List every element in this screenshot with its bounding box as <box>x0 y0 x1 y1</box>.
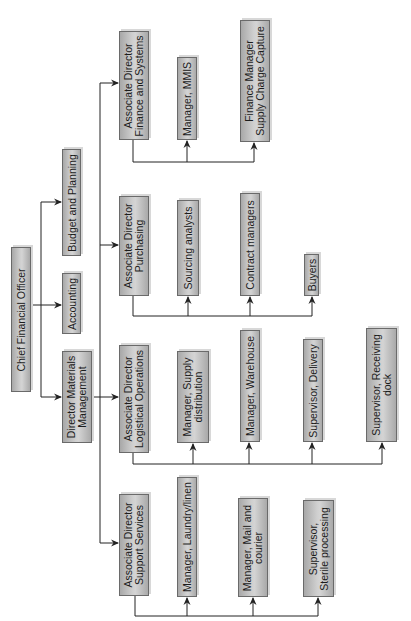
node-ad-support-services: Associate Director Support Services <box>119 494 149 596</box>
node-manager-supply-distribution: Manager, Supply distribution <box>177 351 209 443</box>
node-label-line2: Supply Charge Capture <box>255 26 266 136</box>
node-manager-mmis: Manager, MMIS <box>177 57 197 140</box>
node-label: Accounting <box>66 278 77 330</box>
node-label-line2: Purchasing <box>134 203 145 288</box>
node-ad-logistical-operations: Associate Director Logistical Operations <box>119 345 149 453</box>
node-finance-manager-supply-charge-capture: Finance Manager Supply Charge Capture <box>240 20 270 142</box>
node-label: Manager, MMIS <box>182 61 193 135</box>
node-label-line1: Supervisor, Receiving <box>371 334 382 436</box>
node-label: Chief Financial Officer <box>16 268 27 371</box>
node-director-materials-management: Director Materials Management <box>62 351 92 443</box>
node-label-line2: courier <box>253 504 264 590</box>
node-ad-purchasing: Associate Director Purchasing <box>119 196 149 296</box>
node-budget-and-planning: Budget and Planning <box>62 149 81 256</box>
node-label-line1: Supervisor, <box>308 507 319 590</box>
node-sourcing-analysts: Sourcing analysts <box>177 200 199 296</box>
node-label-line2: Management <box>77 356 88 438</box>
node-label-line2: dock <box>382 334 393 436</box>
node-manager-laundry-linen: Manager, Laundry/linen <box>177 477 197 597</box>
node-supervisor-receiving-dock: Supervisor, Receiving dock <box>366 328 397 442</box>
node-label: Buyers <box>306 259 317 292</box>
node-label: Supervisor, Delivery <box>308 344 319 437</box>
node-contract-managers: Contract managers <box>240 193 260 296</box>
node-buyers: Buyers <box>304 254 319 296</box>
node-accounting: Accounting <box>62 273 81 334</box>
node-label: Manager, Warehouse <box>245 336 256 436</box>
node-label-line2: Sterile processing <box>319 507 330 590</box>
node-chief-financial-officer: Chief Financial Officer <box>11 247 31 392</box>
node-supervisor-sterile-processing: Supervisor, Sterile processing <box>303 500 334 597</box>
node-label: Sourcing analysts <box>183 207 194 290</box>
node-label: Manager, Laundry/linen <box>182 482 193 592</box>
node-label: Budget and Planning <box>66 154 77 252</box>
node-manager-mail-courier: Manager, Mail and courier <box>238 498 268 597</box>
node-label-line2: Finance and Systems <box>134 35 145 136</box>
node-label-line2: distribution <box>193 358 204 437</box>
org-chart: Chief Financial Officer Budget and Plann… <box>0 0 411 621</box>
node-ad-finance-systems: Associate Director Finance and Systems <box>119 31 149 140</box>
node-manager-warehouse: Manager, Warehouse <box>240 330 260 442</box>
node-supervisor-delivery: Supervisor, Delivery <box>303 339 323 442</box>
node-label-line2: Logistical Operations <box>134 350 145 448</box>
node-label-line2: Support Services <box>134 502 145 587</box>
node-label: Contract managers <box>245 200 256 289</box>
